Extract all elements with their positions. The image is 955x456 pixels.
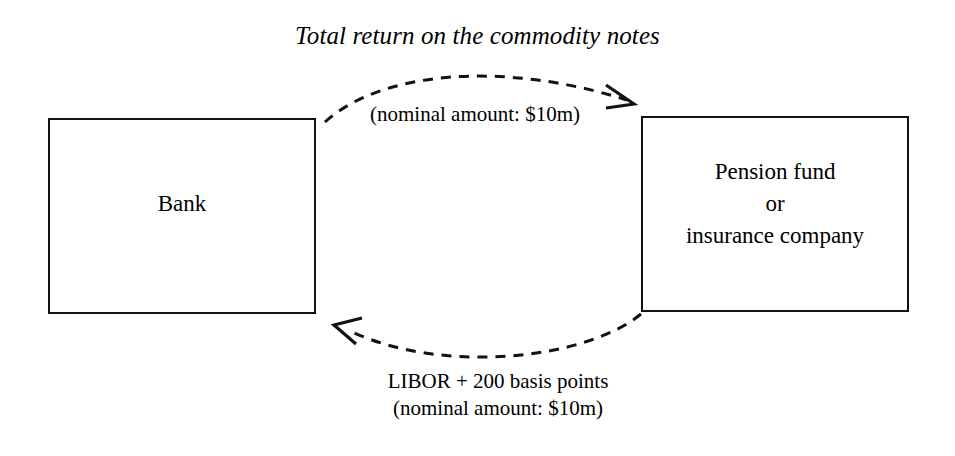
bottom-flow-label: LIBOR + 200 basis points (nominal amount… — [303, 368, 693, 422]
top-flow-nominal-amount-label: (nominal amount: $10m) — [305, 101, 645, 128]
bottom-flow-arrowhead — [334, 318, 362, 344]
entity-box-bank-label: Bank — [158, 188, 207, 220]
bottom-flow-arrow-path — [348, 314, 641, 357]
bottom-flow-arrow — [334, 314, 641, 357]
entity-box-pension-fund: Pension fund or insurance company — [641, 116, 909, 312]
diagram-canvas: Total return on the commodity notes Bank… — [0, 0, 955, 456]
entity-box-bank: Bank — [48, 118, 316, 314]
entity-box-pension-fund-label: Pension fund or insurance company — [686, 156, 864, 252]
